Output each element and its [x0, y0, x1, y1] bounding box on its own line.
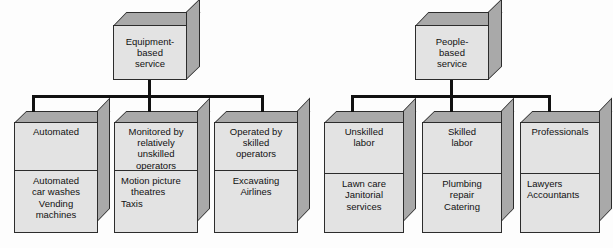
example-line: Janitorial	[345, 189, 383, 200]
connector-drop-unskilled	[351, 95, 354, 112]
connector-drop-professionals	[548, 95, 551, 112]
connector-drop-monitored	[148, 95, 151, 112]
node-header-unskilled: Unskilled labor	[325, 123, 403, 173]
connector-drop-operated	[261, 95, 264, 112]
example-line: Excavating	[233, 175, 279, 186]
label-line: operators	[236, 148, 276, 159]
example-line: Airlines	[240, 186, 271, 197]
example-line: repair	[450, 189, 474, 200]
label-line: service	[135, 58, 165, 69]
example-line: Accountants	[527, 189, 579, 200]
box-front-face: Monitored by relatively unskilled operat…	[114, 122, 198, 233]
label-line: skilled	[243, 137, 269, 148]
node-professionals: Professionals Lawyers Accountants	[520, 111, 613, 235]
node-examples-professionals: Lawyers Accountants	[521, 174, 599, 232]
node-unskilled-labor: Unskilled labor Lawn care Janitorial ser…	[324, 111, 417, 235]
node-examples-monitored: Motion picture theatres Taxis	[115, 171, 197, 232]
label-line: Professionals	[531, 126, 588, 137]
label-line: Monitored by	[129, 126, 184, 137]
label-line: based	[439, 47, 465, 58]
example-line: Lawyers	[527, 178, 562, 189]
node-header-operated: Operated by skilled operators	[215, 123, 297, 170]
connector-root-stem-right	[450, 80, 453, 96]
box-side-face	[197, 98, 210, 222]
box-front-face: Operated by skilled operators Excavating…	[214, 122, 298, 233]
example-line: Lawn care	[342, 178, 386, 189]
box-front-face: Equipment- based service	[113, 25, 187, 80]
box-front-face: Professionals Lawyers Accountants	[520, 122, 600, 233]
example-line: theatres	[121, 186, 165, 197]
label-line: Operated by	[230, 126, 282, 137]
node-header-skilled: Skilled labor	[423, 123, 501, 173]
node-examples-operated: Excavating Airlines	[215, 171, 297, 232]
node-examples-automated: Automated car washes Vending machines	[15, 171, 97, 232]
box-side-face	[297, 98, 310, 222]
box-side-face	[599, 98, 612, 222]
label-line: Automated	[33, 126, 79, 137]
example-line: Plumbing	[442, 178, 482, 189]
label-line: labor	[353, 137, 374, 148]
node-header-professionals: Professionals	[521, 123, 599, 173]
box-front-face: Skilled labor Plumbing repair Catering	[422, 122, 502, 233]
label-line: Equipment-	[126, 36, 175, 47]
box-side-face	[97, 98, 110, 222]
box-side-face	[501, 98, 514, 222]
label-line: Skilled	[448, 126, 476, 137]
node-skilled-labor: Skilled labor Plumbing repair Catering	[422, 111, 515, 235]
box-side-face	[186, 0, 200, 80]
label-line: unskilled	[138, 148, 175, 159]
connector-drop-skilled	[450, 95, 453, 112]
node-header-automated: Automated	[15, 123, 97, 170]
root-node-people-based: People- based service	[415, 12, 502, 94]
root-node-equipment-based: Equipment- based service	[113, 12, 200, 94]
node-automated: Automated Automated car washes Vending m…	[14, 111, 111, 235]
example-line: machines	[36, 209, 77, 220]
example-line: Vending	[39, 198, 73, 209]
label-line: Unskilled	[345, 126, 384, 137]
connector-root-stem-left	[148, 80, 151, 96]
box-side-face	[488, 0, 502, 80]
node-examples-unskilled: Lawn care Janitorial services	[325, 174, 403, 232]
label-line: service	[437, 58, 467, 69]
example-line: Taxis	[121, 198, 143, 209]
label-line: People-	[436, 36, 469, 47]
example-line: Catering	[444, 201, 480, 212]
box-front-face: People- based service	[415, 25, 489, 80]
example-line: Motion picture	[121, 175, 181, 186]
diagram-canvas: Equipment- based service Automated Autom…	[0, 0, 613, 248]
box-front-face: Unskilled labor Lawn care Janitorial ser…	[324, 122, 404, 233]
root-label-equipment-based: Equipment- based service	[114, 26, 186, 79]
node-examples-skilled: Plumbing repair Catering	[423, 174, 501, 232]
node-operated-skilled: Operated by skilled operators Excavating…	[214, 111, 311, 235]
node-header-monitored: Monitored by relatively unskilled operat…	[115, 123, 197, 170]
connector-drop-automated	[32, 95, 35, 112]
label-line: labor	[451, 137, 472, 148]
box-side-face	[403, 98, 416, 222]
root-label-people-based: People- based service	[416, 26, 488, 79]
label-line: relatively	[137, 137, 175, 148]
example-line: car washes	[32, 186, 80, 197]
label-line: based	[137, 47, 163, 58]
example-line: Automated	[33, 175, 79, 186]
box-front-face: Automated Automated car washes Vending m…	[14, 122, 98, 233]
node-monitored-unskilled: Monitored by relatively unskilled operat…	[114, 111, 211, 235]
example-line: services	[347, 201, 382, 212]
